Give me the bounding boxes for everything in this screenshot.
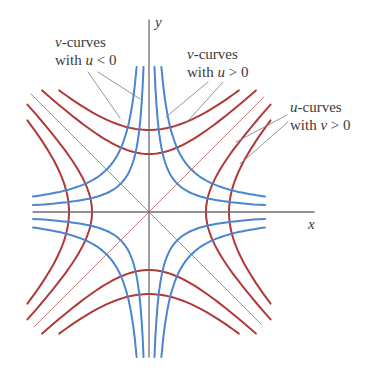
v-curve (155, 67, 266, 205)
v-curve (155, 219, 266, 357)
leader-line (236, 115, 287, 142)
y-axis-label: y (155, 14, 162, 31)
diagonal-line (31, 94, 261, 324)
label-u-curves-v-positive: u-curves with v > 0 (290, 98, 351, 134)
label-v-curves-u-positive: v-curves with u > 0 (187, 45, 248, 81)
v-curve (33, 228, 137, 358)
leader-line (186, 82, 223, 123)
v-curve (161, 67, 265, 197)
leader-line (166, 82, 208, 117)
label-v-curves-u-negative: v-curves with u < 0 (55, 33, 116, 69)
v-curve (161, 228, 265, 358)
v-curve (33, 219, 144, 357)
v-curve (33, 67, 144, 205)
leader-line (88, 72, 120, 118)
x-axis-label: x (308, 216, 315, 233)
